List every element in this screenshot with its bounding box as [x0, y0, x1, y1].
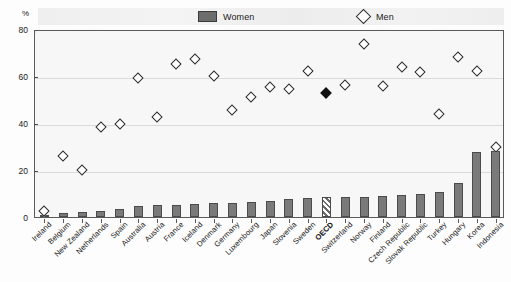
marker-men	[396, 62, 407, 73]
marker-men	[377, 81, 388, 92]
marker-men	[302, 65, 313, 76]
marker-men	[283, 83, 294, 94]
bar-women	[284, 199, 293, 217]
y-axis-tick-mark	[34, 124, 38, 125]
bar-women	[322, 197, 331, 217]
marker-men	[358, 38, 369, 49]
marker-men	[189, 54, 200, 65]
bar-women	[266, 201, 275, 217]
bar-women	[416, 194, 425, 218]
y-axis-tick-label: 0	[8, 213, 28, 223]
marker-men	[76, 164, 87, 175]
legend-label-women: Women	[223, 12, 254, 22]
bar-women	[209, 203, 218, 217]
bar-women	[228, 203, 237, 217]
marker-men	[227, 104, 238, 115]
marker-men	[415, 66, 426, 77]
y-axis-tick-label: 80	[8, 25, 28, 35]
bar-women	[378, 196, 387, 217]
marker-men	[114, 118, 125, 129]
men-diamond-icon	[356, 9, 372, 25]
bar-women	[491, 151, 500, 217]
plot-area	[34, 30, 504, 218]
bar-women	[78, 212, 87, 217]
bar-women	[454, 183, 463, 217]
bar-women	[247, 202, 256, 217]
y-axis-tick-label: 60	[8, 72, 28, 82]
bar-women	[190, 204, 199, 217]
gridline	[35, 172, 503, 173]
y-axis-tick-label: 40	[8, 119, 28, 129]
bar-women	[96, 211, 105, 217]
marker-men	[58, 150, 69, 161]
marker-men	[434, 109, 445, 120]
y-axis-unit-label: %	[22, 9, 29, 18]
legend-item-women: Women	[198, 11, 254, 22]
bar-women	[397, 195, 406, 217]
women-swatch-icon	[198, 11, 217, 22]
bar-women	[341, 197, 350, 217]
bar-women	[115, 209, 124, 217]
legend-label-men: Men	[376, 12, 394, 22]
chart-legend: Women Men	[38, 8, 504, 25]
y-axis-tick-mark	[34, 171, 38, 172]
bar-women	[59, 213, 68, 217]
bar-women	[360, 197, 369, 217]
bar-women	[472, 152, 481, 217]
y-axis-tick-mark	[34, 77, 38, 78]
x-axis-labels: IrelandBelgiumNew ZealandNetherlandsSpai…	[34, 220, 504, 282]
marker-men	[452, 51, 463, 62]
marker-men	[246, 91, 257, 102]
x-axis-label: Austria	[143, 220, 167, 244]
bar-women	[172, 205, 181, 217]
marker-men	[321, 88, 332, 99]
marker-men	[208, 70, 219, 81]
marker-men	[95, 122, 106, 133]
marker-men	[471, 65, 482, 76]
plot-texture	[35, 31, 503, 217]
marker-men	[133, 72, 144, 83]
marker-men	[170, 58, 181, 69]
marker-men	[152, 111, 163, 122]
legend-item-men: Men	[358, 11, 394, 22]
bar-women	[435, 192, 444, 217]
bar-women	[153, 205, 162, 217]
gridline	[35, 78, 503, 79]
chart-root: % Women Men IrelandBelgiumNew ZealandNet…	[0, 0, 511, 282]
bar-women	[303, 198, 312, 217]
marker-men	[340, 79, 351, 90]
marker-men	[264, 82, 275, 93]
y-axis-tick-label: 20	[8, 166, 28, 176]
bar-women	[134, 206, 143, 217]
